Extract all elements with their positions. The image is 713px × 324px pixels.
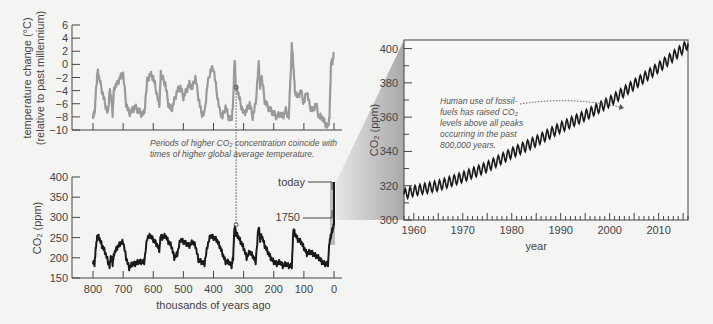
- co2-left-y-tick-label: 200: [50, 252, 68, 264]
- temperature-line: [93, 43, 334, 128]
- temp-y-tick-label: −10: [49, 124, 68, 136]
- annotation-line: times of higher global average temperatu…: [150, 149, 337, 160]
- co2-left-y-tick-label: 150: [50, 272, 68, 284]
- temp-y-label: temperature change (°C): [21, 17, 33, 138]
- today-label: today: [278, 176, 305, 188]
- temp-y-tick-label: −6: [55, 98, 68, 110]
- co2-right-x-tick-label: 1970: [451, 224, 475, 236]
- co2-left-y-tick-label: 350: [50, 191, 68, 203]
- temp-y-tick-label: 6: [62, 19, 68, 31]
- co2-left-x-tick-label: 700: [114, 283, 132, 295]
- co2-right-y-tick-label: 340: [380, 145, 398, 157]
- annotation-line: 800,000 years.: [440, 140, 523, 151]
- annotation-line: levels above all peaks: [440, 118, 523, 129]
- temp-y-tick-label: −8: [55, 111, 68, 123]
- temp-y-tick-label: −2: [55, 72, 68, 84]
- co2-left-x-tick-label: 100: [295, 283, 313, 295]
- co2-left-x-tick-label: 400: [204, 283, 222, 295]
- temp-y-tick-label: 4: [62, 32, 68, 44]
- co2-right-y-tick-label: 360: [380, 111, 398, 123]
- climate-figure: 6420−2−4−6−8−10temperature change (°C)(r…: [0, 0, 713, 324]
- co2-left-x-tick-label: 0: [331, 283, 337, 295]
- today-leader: [308, 182, 332, 190]
- co2-left-x-tick-label: 800: [84, 283, 102, 295]
- annotation-line: occurring in the past: [440, 129, 523, 140]
- year-1750-leader: [303, 210, 332, 218]
- co2-left-x-label: thousands of years ago: [156, 299, 270, 311]
- temp-y-tick-label: 0: [62, 58, 68, 70]
- co2-right-x-tick-label: 1960: [402, 224, 426, 236]
- co2-left-x-tick-label: 300: [234, 283, 252, 295]
- temp-y-tick-label: 2: [62, 45, 68, 57]
- year-1750-label: 1750: [276, 211, 300, 223]
- fossil-annotation: Human use of fossil- fuels has raised CO…: [440, 96, 523, 151]
- annotation-line: fuels has raised CO₂: [440, 107, 523, 118]
- coincide-annotation: Periods of higher CO₂ concentration coin…: [150, 138, 337, 160]
- annotation-line: Human use of fossil-: [440, 96, 523, 107]
- co2-left-y-tick-label: 400: [50, 171, 68, 183]
- co2-right-x-tick-label: 1990: [548, 224, 572, 236]
- co2-right-y-tick-label: 300: [380, 214, 398, 226]
- co2-left-x-tick-label: 200: [265, 283, 283, 295]
- co2-left-y-tick-label: 300: [50, 211, 68, 223]
- annotation-line: Periods of higher CO₂ concentration coin…: [150, 138, 337, 149]
- co2-right-x-label: year: [526, 240, 548, 252]
- co2-left-x-tick-label: 600: [144, 283, 162, 295]
- co2-left-x-tick-label: 500: [174, 283, 192, 295]
- co2-right-y-label: CO₂ (ppm): [368, 104, 380, 157]
- temp-y-label-sub: (relative to past millennium): [34, 11, 46, 146]
- co2-right-x-tick-label: 2000: [597, 224, 621, 236]
- temp-y-tick-label: −4: [55, 85, 68, 97]
- co2-right-y-tick-label: 400: [380, 43, 398, 55]
- co2-left-y-tick-label: 250: [50, 232, 68, 244]
- co2-right-x-tick-label: 2010: [646, 224, 670, 236]
- co2-right-y-tick-label: 380: [380, 77, 398, 89]
- co2-left-y-label: CO₂ (ppm): [31, 202, 43, 255]
- co2-right-x-tick-label: 1980: [499, 224, 523, 236]
- co2-right-y-tick-label: 320: [380, 180, 398, 192]
- co2-ice-core-line: [93, 224, 334, 270]
